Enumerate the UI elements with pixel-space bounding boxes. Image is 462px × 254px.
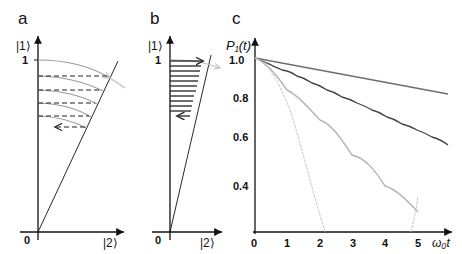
y-tick-1: 1 [22, 54, 28, 66]
x-tick: 5 [415, 237, 421, 249]
panel-c: c P₁(t) 1.0 0.8 0.6 0.4 0 1 2 3 4 5 ω₀t [226, 9, 452, 250]
projection-lines-dense [170, 61, 202, 116]
origin-label: 0 [155, 234, 161, 246]
ket-1-label: |1⟩ [16, 39, 31, 53]
x-tick: 0 [251, 237, 257, 249]
x-tick: 4 [382, 237, 389, 249]
curve-tail [411, 196, 418, 232]
x-tick: 2 [317, 237, 323, 249]
curve-sparse-measurement [255, 58, 418, 212]
panel-b-label: b [150, 9, 159, 28]
ket-1-label: |1⟩ [148, 39, 163, 53]
curve-frequent-measurement [255, 58, 448, 94]
x-tick: 3 [350, 237, 356, 249]
y-tick: 0.8 [233, 92, 248, 104]
y-tick: 1.0 [229, 54, 244, 66]
panel-c-label: c [232, 9, 241, 28]
curve-moderate-measurement [255, 58, 448, 145]
y-axis-title: P₁(t) [226, 38, 251, 53]
panel-a: a |1⟩ 1 0 |2⟩ [16, 9, 125, 250]
y-tick: 0.6 [233, 131, 248, 143]
y-tick-1: 1 [155, 54, 161, 66]
x-axis-title: ω₀t [432, 236, 450, 250]
origin-label: 0 [24, 234, 30, 246]
ket-2-label: |2⟩ [200, 236, 215, 250]
panel-a-label: a [18, 9, 28, 28]
ket-2-label: |2⟩ [103, 236, 118, 250]
y-tick: 0.4 [233, 180, 249, 192]
evolution-arcs [38, 60, 125, 128]
measurement-axis-line [38, 61, 118, 232]
panel-b: b |1⟩ 1 0 |2⟩ [148, 9, 222, 250]
figure: a |1⟩ 1 0 |2⟩ b |1⟩ [0, 0, 462, 254]
projection-dashes [38, 76, 108, 127]
x-tick: 1 [284, 237, 290, 249]
